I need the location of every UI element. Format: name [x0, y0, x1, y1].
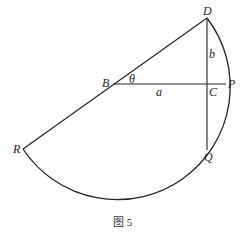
label-D: D — [202, 4, 212, 18]
label-a: a — [156, 85, 162, 99]
geometry-diagram: D B θ b a C P R Q 图 5 — [0, 0, 242, 232]
label-R: R — [12, 142, 21, 156]
label-P: P — [227, 77, 236, 91]
circle-arc-DPQR — [23, 18, 230, 200]
label-C: C — [209, 85, 218, 99]
label-theta: θ — [129, 72, 135, 86]
figure-caption: 图 5 — [113, 216, 133, 228]
label-b: b — [209, 47, 215, 61]
label-Q: Q — [204, 150, 213, 164]
label-B: B — [102, 76, 110, 90]
